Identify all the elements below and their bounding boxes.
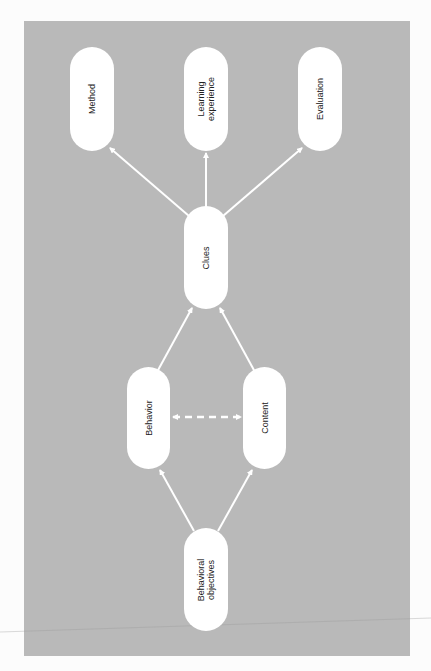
node-behavior: Behavior xyxy=(127,367,170,469)
node-clues: Clues xyxy=(184,206,228,309)
node-evaluation: Evaluation xyxy=(298,47,342,151)
node-label: Method xyxy=(87,84,97,114)
node-label: Clues xyxy=(201,246,211,269)
node-learning-experience: Learning experience xyxy=(184,47,228,151)
node-label: Behavioral objectives xyxy=(196,558,216,601)
node-label: Content xyxy=(260,402,270,434)
node-label: Learning experience xyxy=(196,77,216,121)
node-behavioral-objectives: Behavioral objectives xyxy=(184,528,228,631)
node-label: Behavior xyxy=(144,400,154,436)
node-method: Method xyxy=(70,47,114,151)
page: Method Learning experience Evaluation Cl… xyxy=(0,0,431,671)
node-content: Content xyxy=(243,367,286,469)
node-label: Evaluation xyxy=(315,78,325,120)
